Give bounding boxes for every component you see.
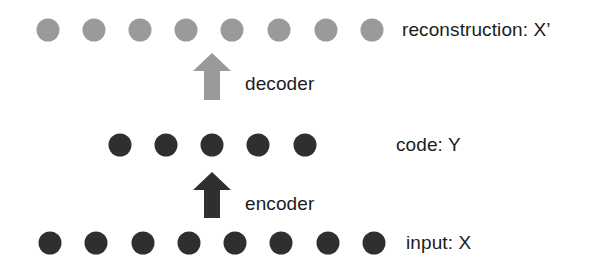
reconstruction-node — [268, 19, 291, 42]
encoder-label: encoder — [245, 193, 314, 215]
input-node — [178, 232, 201, 255]
encoder-arrow-icon — [193, 172, 231, 222]
decoder-arrow-icon — [193, 53, 231, 104]
reconstruction-node — [175, 19, 198, 42]
reconstruction-node — [129, 19, 152, 42]
input-node — [39, 232, 62, 255]
reconstruction-node — [221, 19, 244, 42]
reconstruction-node — [315, 19, 338, 42]
up-arrow-icon — [193, 172, 231, 218]
input-node — [270, 232, 293, 255]
reconstruction-label: reconstruction: X’ — [402, 19, 551, 41]
autoencoder-diagram: reconstruction: X’ decoder code: Y encod… — [0, 0, 596, 274]
decoder-label: decoder — [245, 73, 314, 95]
code-label: code: Y — [396, 134, 461, 156]
reconstruction-node — [37, 19, 60, 42]
input-node — [317, 232, 340, 255]
input-node — [85, 232, 108, 255]
code-node — [109, 134, 132, 157]
input-node — [224, 232, 247, 255]
input-label: input: X — [406, 232, 471, 254]
reconstruction-node — [361, 19, 384, 42]
reconstruction-node — [83, 19, 106, 42]
up-arrow-icon — [193, 53, 231, 100]
code-node — [247, 134, 270, 157]
code-node — [155, 134, 178, 157]
input-node — [363, 232, 386, 255]
code-node — [201, 134, 224, 157]
code-node — [294, 134, 317, 157]
input-node — [132, 232, 155, 255]
